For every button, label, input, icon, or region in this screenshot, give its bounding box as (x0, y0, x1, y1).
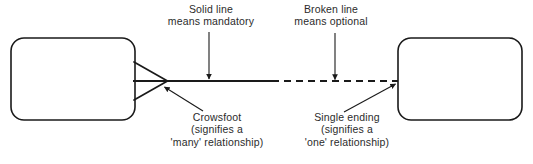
solid-line-label-line1: Solid line (151, 3, 271, 15)
single-ending-label-line2: (signifies a (287, 123, 407, 135)
er-notation-diagram: Solid line means mandatory Broken line m… (0, 0, 533, 164)
solid-line-annotation-label: Solid line means mandatory (151, 3, 271, 28)
right-entity-box[interactable] (398, 38, 522, 120)
crowsfoot-label-line1: Crowsfoot (157, 111, 277, 123)
single-ending-annotation-label: Single ending (signifies a 'one' relatio… (287, 111, 407, 148)
broken-line-annotation-label: Broken line means optional (271, 3, 391, 28)
solid-line-label-line2: means mandatory (151, 15, 271, 27)
crowsfoot-label-line3: 'many' relationship) (157, 136, 277, 148)
crowsfoot-upper-prong (134, 62, 168, 81)
crowsfoot-annotation-label: Crowsfoot (signifies a 'many' relationsh… (157, 111, 277, 148)
crowsfoot-annotation-arrow (165, 87, 204, 111)
single-ending-label-line1: Single ending (287, 111, 407, 123)
broken-line-label-line1: Broken line (271, 3, 391, 15)
left-entity-box[interactable] (11, 38, 135, 120)
single-ending-annotation-arrow (344, 84, 396, 112)
crowsfoot-lower-prong (134, 81, 168, 100)
crowsfoot-label-line2: (signifies a (157, 123, 277, 135)
single-ending-label-line3: 'one' relationship) (287, 136, 407, 148)
broken-line-label-line2: means optional (271, 15, 391, 27)
